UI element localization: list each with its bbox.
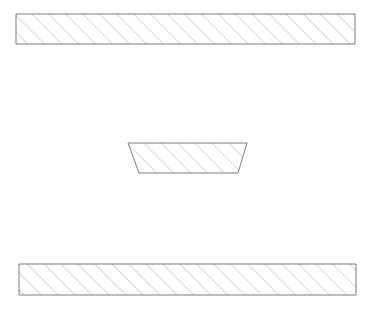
- shape-upper-bar: [16, 14, 355, 44]
- center-trapezoid-fill: [128, 143, 247, 173]
- lower-bar-fill: [19, 264, 356, 295]
- upper-bar-fill: [16, 14, 355, 44]
- shape-center-trapezoid: [128, 143, 247, 173]
- diagram-svg: [0, 0, 373, 317]
- diagram-canvas: [0, 0, 373, 317]
- shape-lower-bar: [19, 264, 356, 295]
